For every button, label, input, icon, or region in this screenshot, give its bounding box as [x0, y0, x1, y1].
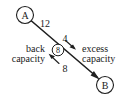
- node-a-label: A: [21, 10, 29, 21]
- back-capacity-label-line2: capacity: [12, 53, 45, 64]
- edge-label-capacity-12: 12: [40, 18, 50, 29]
- excess-capacity-label-line2: capacity: [82, 53, 115, 64]
- flow-network-diagram: A B 8 12 4 8 back capacity excess capaci…: [0, 0, 129, 100]
- diagram-canvas: A B 8 12 4 8 back capacity excess capaci…: [0, 0, 129, 100]
- edge-label-back-8: 8: [63, 63, 68, 74]
- edge-split-marker-label: 8: [56, 46, 60, 55]
- node-b-label: B: [102, 80, 109, 91]
